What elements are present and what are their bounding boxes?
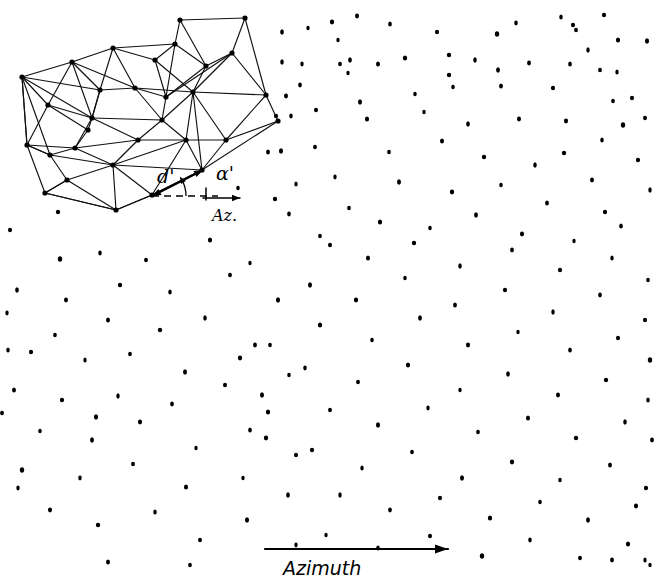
station-point [106,317,110,322]
station-point [646,397,650,402]
network-node [45,102,50,107]
station-point [598,68,602,73]
station-point [403,55,407,60]
station-point [8,228,12,233]
station-point [90,437,94,442]
station-point [346,71,349,75]
station-point [330,20,334,25]
station-point [183,369,187,374]
station-point [388,21,392,26]
station-point [336,38,339,43]
station-point [348,57,352,62]
station-point [545,200,549,205]
station-point [526,415,530,420]
station-point [644,486,648,491]
station-point [118,283,122,287]
station-point [616,336,620,341]
station-point [198,538,202,543]
station-point [590,178,594,183]
station-point [527,61,531,66]
station-point [310,448,314,452]
station-point [48,508,52,513]
station-point [106,559,110,564]
station-point [602,13,606,17]
network-node [110,45,115,50]
station-point [358,99,362,104]
station-point [600,137,604,142]
station-point [294,181,297,186]
station-point [324,533,327,537]
station-point [131,462,135,466]
station-point [241,476,244,481]
network-node [132,85,137,90]
station-point [451,85,455,89]
station-point [354,298,358,303]
station-point [615,69,618,74]
station-point [78,476,82,481]
station-point [466,343,470,348]
station-point [528,538,532,543]
station-point [273,197,277,201]
station-point [559,14,563,19]
station-point [356,380,360,384]
network-node [47,152,52,157]
station-point [604,378,608,382]
station-point [138,420,142,425]
station-point [298,83,302,88]
station-point [347,206,351,211]
station-point [16,486,19,491]
station-point [318,234,322,238]
station-point [286,492,290,497]
station-point [517,117,521,122]
station-point [610,558,614,563]
station-point [248,427,252,432]
station-point [603,210,607,215]
station-point [514,21,518,26]
station-point [333,175,336,180]
station-point [338,62,342,66]
station-point [650,438,654,443]
station-point [450,190,454,195]
station-point [496,67,500,72]
station-point [303,366,307,371]
station-point [276,297,280,302]
network-node [263,92,268,97]
station-point [184,484,188,489]
network-node [172,41,177,46]
station-point [568,347,572,352]
station-point [643,318,647,322]
station-point [645,38,649,43]
station-point [238,356,242,361]
station-point [648,187,651,192]
network-node [19,74,24,79]
station-point [413,92,417,97]
station-point [378,219,382,224]
station-point [6,347,10,352]
station-point [458,263,462,268]
station-point [287,212,291,217]
network-node [242,15,247,20]
station-point [168,289,172,294]
station-point [533,162,537,167]
station-point [516,330,519,334]
station-point [313,145,317,149]
station-point [284,94,288,99]
station-point [170,402,174,407]
station-point [60,398,64,403]
network-node [89,115,94,120]
az-short-label: Az. [210,206,237,225]
station-point [621,122,625,127]
network-node [64,177,69,182]
station-point [466,121,470,126]
station-point [387,150,391,154]
station-point [551,86,555,91]
station-point [279,148,283,153]
network-node [159,117,164,122]
station-point [630,96,634,101]
network-node [113,207,118,212]
station-point [266,409,270,414]
station-point [294,543,297,548]
station-point [83,357,86,362]
station-point [586,517,590,522]
network-node [110,162,115,167]
